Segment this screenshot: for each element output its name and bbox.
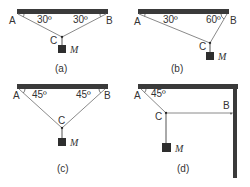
point-a-label: A bbox=[134, 90, 141, 101]
mass-label: M bbox=[217, 51, 227, 62]
panel-caption: (a) bbox=[55, 63, 67, 74]
ceiling-bar bbox=[17, 9, 108, 14]
knot-b bbox=[230, 113, 232, 115]
point-a-label: A bbox=[9, 15, 16, 26]
panel-caption: (d) bbox=[177, 163, 189, 174]
angle-arc-b bbox=[100, 14, 101, 17]
point-a-label: A bbox=[134, 16, 141, 27]
panel-c: A B C 45º 45º M (c) bbox=[13, 84, 111, 174]
mass-block bbox=[206, 52, 214, 60]
angle-b-label: 60º bbox=[206, 14, 221, 25]
ceiling-bar bbox=[17, 84, 108, 89]
panel-d: A B C 45º M (d) bbox=[134, 84, 238, 178]
mass-label: M bbox=[174, 143, 184, 154]
panel-caption: (b) bbox=[171, 63, 183, 74]
point-b-label: B bbox=[106, 15, 113, 26]
mass-label: M bbox=[69, 44, 79, 55]
point-c-label: C bbox=[199, 41, 206, 52]
point-c-label: C bbox=[58, 115, 65, 126]
angle-b-label: 30º bbox=[73, 14, 88, 25]
mass-block bbox=[162, 143, 171, 152]
point-c-label: C bbox=[155, 111, 162, 122]
angle-arc-a bbox=[23, 14, 24, 17]
angle-arc-a bbox=[23, 89, 25, 93]
point-a-label: A bbox=[13, 90, 20, 101]
panel-a: A B C 30º 30º M (a) bbox=[9, 9, 113, 74]
point-c-label: C bbox=[50, 35, 57, 46]
angle-a-label: 45º bbox=[32, 89, 47, 100]
point-b-label: B bbox=[223, 100, 230, 111]
mass-block bbox=[58, 45, 66, 53]
point-b-label: B bbox=[230, 15, 237, 26]
angle-arc-b bbox=[99, 89, 101, 93]
angle-arc-a bbox=[145, 14, 146, 16]
angle-arc-a bbox=[145, 89, 146, 93]
mass-label: M bbox=[69, 137, 79, 148]
panel-b: A B C 30º 60º M (b) bbox=[134, 9, 237, 74]
angle-arc-b bbox=[221, 14, 224, 19]
panel-caption: (c) bbox=[57, 163, 69, 174]
angle-a-label: 30º bbox=[37, 14, 52, 25]
point-b-label: B bbox=[104, 90, 111, 101]
angle-a-label: 30º bbox=[163, 14, 178, 25]
mass-block bbox=[58, 138, 66, 146]
tension-diagrams: A B C 30º 30º M (a) A B C 30º 60º M (b) … bbox=[0, 0, 250, 187]
angle-b-label: 45º bbox=[76, 89, 91, 100]
wall-bar bbox=[233, 84, 237, 178]
angle-a-label: 45º bbox=[151, 88, 166, 99]
